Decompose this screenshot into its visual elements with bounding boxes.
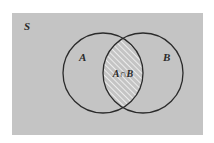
universe-label: S bbox=[24, 20, 30, 32]
set-b-label: B bbox=[162, 51, 170, 63]
venn-diagram: S A B A∩B bbox=[0, 0, 214, 143]
intersection-label: A∩B bbox=[112, 68, 134, 79]
set-a-label: A bbox=[78, 51, 86, 63]
